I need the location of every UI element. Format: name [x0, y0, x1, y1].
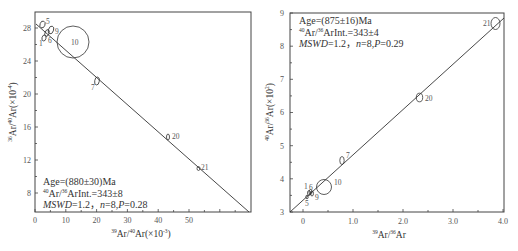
y-tick-label: 9: [280, 9, 284, 18]
y-tick-label: 6: [280, 108, 284, 117]
left-x-tick-labels: 0 10 20 30 40 50: [33, 216, 193, 225]
x-tick-label: 50: [185, 216, 193, 225]
point-label: 10: [71, 38, 79, 47]
intercept-text: 40Ar/36ArInt.=343±4: [299, 27, 379, 38]
point-label: 6: [48, 36, 52, 45]
y-tick-label: 8: [27, 189, 31, 198]
ellipse-5: [39, 20, 46, 28]
ellipse-21: [491, 18, 500, 30]
y-tick-label: 4: [280, 175, 284, 184]
ellipse-9: [47, 25, 54, 34]
left-y-axis-label: 36Ar/40Ar(×10-4): [7, 82, 19, 141]
right-y-axis-label: 40Ar/36Ar(×102): [264, 83, 276, 141]
right-x-tick-labels: 0 1.0 2.0 3.0 4.0: [301, 217, 508, 226]
age-text: Age=(875±16)Ma: [299, 15, 372, 27]
point-label: 9: [315, 193, 319, 202]
left-annotation: Age=(880±30)Ma 40Ar/36ArInt.=343±8 MSWD=…: [42, 176, 147, 210]
normal-isochron-chart: 28 24 20 16 12 8 0 10 20: [7, 12, 251, 240]
x-tick-label: 30: [123, 216, 131, 225]
ellipse-20: [167, 134, 170, 140]
right-y-tick-labels: 3 4 5 6 7 8 9: [280, 9, 284, 217]
x-tick-label: 20: [93, 216, 101, 225]
x-tick-label: 10: [62, 216, 70, 225]
inverse-isochron-chart: 3 4 5 6 7 8 9 0 1.0 2.0 3.0 4.0: [264, 9, 508, 240]
mswd-text: MSWD=1.2，n=8,P=0.29: [298, 38, 403, 49]
x-tick-label: 4.0: [498, 217, 508, 226]
y-tick-label: 16: [23, 123, 31, 132]
left-x-axis-label: 39Ar/40Ar(×10-3): [111, 228, 170, 240]
point-label: 7: [91, 83, 95, 92]
y-tick-label: 7: [280, 75, 284, 84]
x-tick-label: 1.0: [348, 217, 358, 226]
point-label: 10: [334, 178, 342, 187]
y-tick-label: 24: [23, 57, 31, 66]
y-tick-label: 8: [280, 42, 284, 51]
left-y-tick-labels: 28 24 20 16 12 8: [23, 24, 31, 198]
point-label: 1: [304, 182, 308, 191]
age-text: Age=(880±30)Ma: [43, 176, 116, 188]
point-label: 20: [172, 132, 180, 141]
point-label: 6: [309, 183, 313, 192]
y-tick-label: 20: [23, 90, 31, 99]
x-tick-label: 3.0: [448, 217, 458, 226]
point-label: 5: [46, 17, 50, 26]
point-label: 20: [425, 94, 433, 103]
ellipse-7: [340, 157, 344, 165]
mswd-text: MSWD=1.2，n=8,P=0.28: [42, 199, 147, 210]
point-label: 9: [55, 27, 59, 36]
point-label: 21: [201, 163, 209, 172]
point-label: 21: [483, 19, 491, 28]
y-tick-label: 12: [23, 156, 31, 165]
intercept-text: 40Ar/36ArInt.=343±8: [43, 188, 123, 199]
y-tick-label: 28: [23, 24, 31, 33]
x-tick-label: 0: [301, 217, 305, 226]
point-label: 5: [305, 199, 309, 208]
x-tick-label: 40: [154, 216, 162, 225]
right-annotation: Age=(875±16)Ma 40Ar/36ArInt.=343±4 MSWD=…: [298, 15, 403, 49]
y-tick-label: 3: [280, 208, 284, 217]
y-tick-label: 5: [280, 142, 284, 151]
left-point-labels: 5 1 6 9 10 7 20 21: [39, 17, 209, 172]
x-tick-label: 2.0: [398, 217, 408, 226]
figure: 28 24 20 16 12 8 0 10 20: [0, 0, 518, 251]
x-tick-label: 0: [33, 216, 37, 225]
point-label: 1: [39, 39, 43, 48]
right-x-axis-label: 39Ar/36Ar: [372, 229, 407, 240]
point-label: 7: [346, 151, 350, 160]
